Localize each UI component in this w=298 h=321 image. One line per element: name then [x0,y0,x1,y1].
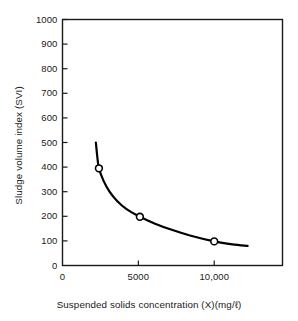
data-point-marker [136,213,143,220]
y-tick-label: 0 [52,261,57,271]
y-tick-label: 300 [41,187,57,197]
y-tick-label: 200 [41,211,57,221]
x-tick-label: 10,000 [199,272,229,282]
x-tick-label: 0 [60,272,65,282]
y-tick-label: 1000 [36,15,58,25]
y-tick-label: 800 [41,64,57,74]
y-tick-label: 500 [41,138,57,148]
data-point-marker [211,238,218,245]
y-tick-label: 600 [41,113,57,123]
chart-figure: 010020030040050060070080090010000500010,… [0,0,298,321]
y-tick-label: 400 [41,162,57,172]
x-axis-title: Suspended solids concentration (X)(mg/ℓ) [0,299,298,310]
y-tick-label: 900 [41,39,57,49]
x-tick-label: 5000 [128,272,150,282]
y-axis-title: Sludge volume index (SVI) [13,46,24,246]
data-point-marker [96,165,103,172]
y-tick-label: 100 [41,236,57,246]
y-tick-label: 700 [41,88,57,98]
